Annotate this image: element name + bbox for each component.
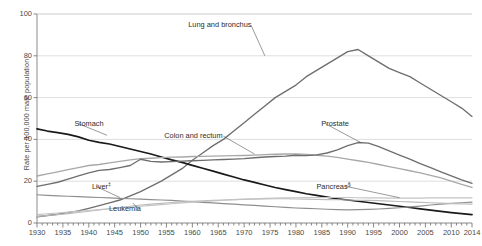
series-label-liver: Liver‡	[92, 181, 111, 191]
series-label-prostate: Prostate	[321, 119, 349, 128]
series-label-leukemia: Leukemia	[109, 204, 141, 213]
y-axis-tick-label: 80	[10, 51, 32, 60]
series-label-pancreas: Pancreas§	[316, 181, 350, 191]
x-axis-tick-label: 2014	[457, 228, 482, 237]
series-label-lung-and-bronchus: Lung and bronchus	[188, 20, 251, 29]
leader-line	[223, 136, 254, 154]
y-axis-tick-label: 20	[10, 176, 32, 185]
series-line-pancreas	[37, 198, 472, 215]
y-axis-tick-label: 0	[10, 218, 32, 227]
footnote-marker: §	[348, 181, 351, 187]
leader-line	[346, 186, 399, 197]
chart-container: Rate per 100,000 male population 1008060…	[0, 0, 482, 246]
series-label-colon-and-rectum: Colon and rectum	[164, 131, 222, 140]
y-axis-tick-label: 100	[10, 9, 32, 18]
footnote-marker: ‡	[108, 181, 111, 187]
y-axis-tick-label: 40	[10, 134, 32, 143]
series-label-stomach: Stomach	[74, 119, 103, 128]
leader-line	[251, 25, 265, 55]
chart-plot-area	[0, 0, 482, 246]
y-axis-tick-label: 60	[10, 93, 32, 102]
